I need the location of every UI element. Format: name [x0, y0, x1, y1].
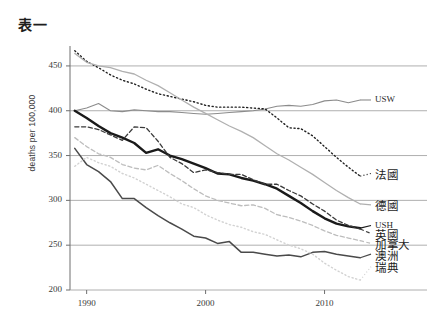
chart-plot-area	[0, 0, 433, 332]
series-line-australia	[75, 148, 360, 257]
y-tick-label: 200	[28, 284, 62, 294]
y-tick-label: 250	[28, 239, 62, 249]
label-leader-lines	[360, 100, 371, 280]
leader-line-sweden	[360, 267, 371, 280]
x-tick-label: 1990	[66, 298, 108, 308]
y-tick-label: 350	[28, 150, 62, 160]
series-line-canada	[75, 138, 360, 241]
y-tick-label: 300	[28, 194, 62, 204]
series-label-usw: USW	[375, 94, 395, 104]
series-label-germany: 德國	[375, 197, 398, 213]
series-label-sweden: 瑞典	[375, 259, 398, 275]
series-line-sweden	[75, 157, 360, 280]
leader-line-ush	[360, 225, 371, 228]
data-series-lines	[75, 51, 360, 280]
series-label-france: 法國	[375, 166, 398, 182]
x-tick-label: 2010	[304, 298, 346, 308]
chart-root: 表一 deaths per 100,000 450400350300250200…	[0, 0, 433, 332]
leader-line-france	[360, 173, 371, 176]
leader-line-australia	[360, 254, 371, 258]
y-tick-label: 400	[28, 105, 62, 115]
y-tick-label: 450	[28, 60, 62, 70]
axis-lines	[70, 46, 427, 290]
series-line-germany	[75, 53, 360, 204]
tick-marks	[66, 66, 325, 294]
gridlines	[70, 66, 427, 245]
leader-line-canada	[360, 241, 371, 244]
x-tick-label: 2000	[185, 298, 227, 308]
leader-line-germany	[360, 204, 371, 205]
series-line-ush	[75, 111, 360, 228]
leader-line-uk	[360, 229, 371, 233]
